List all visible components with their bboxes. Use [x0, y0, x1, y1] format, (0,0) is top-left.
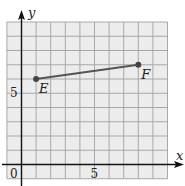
coordinate-plane: xy055EF [0, 0, 185, 186]
point-label-F: F [140, 67, 151, 82]
grid-background [7, 22, 168, 179]
y-axis-label: y [27, 5, 36, 20]
y-tick-label: 5 [10, 86, 18, 100]
x-axis-label: x [176, 148, 184, 163]
chart-svg: xy055EF [0, 0, 185, 186]
point-label-E: E [38, 81, 49, 96]
x-tick-label: 0 [10, 167, 18, 181]
x-tick-label: 5 [91, 167, 99, 181]
